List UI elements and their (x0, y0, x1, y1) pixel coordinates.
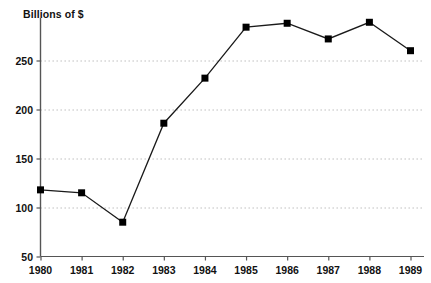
data-point-marker (160, 120, 167, 127)
data-point-marker (37, 186, 44, 193)
data-point-marker (284, 20, 291, 27)
gridlines-group (41, 61, 425, 208)
line-chart: Billions of $ 25020015010050 19801981198… (0, 0, 431, 283)
data-point-marker (201, 75, 208, 82)
data-line (41, 22, 411, 222)
y-tick-label: 200 (3, 104, 33, 116)
data-point-marker (119, 219, 126, 226)
y-tick-label: 150 (3, 153, 33, 165)
data-point-marker (325, 35, 332, 42)
x-tick-label: 1987 (307, 264, 349, 276)
x-tick-label: 1989 (390, 264, 431, 276)
x-tick-label: 1981 (61, 264, 103, 276)
x-tick-label: 1980 (20, 264, 62, 276)
data-point-marker (78, 189, 85, 196)
x-tick-label: 1985 (225, 264, 267, 276)
x-tick-label: 1984 (184, 264, 226, 276)
data-markers-group (37, 19, 414, 226)
axis-lines-group (41, 18, 425, 257)
y-tick-label: 100 (3, 202, 33, 214)
x-tick-label: 1982 (102, 264, 144, 276)
y-tick-label: 250 (3, 55, 33, 67)
plot-area (0, 0, 431, 283)
x-tick-label: 1986 (266, 264, 308, 276)
data-point-marker (407, 47, 414, 54)
x-tick-label: 1983 (143, 264, 185, 276)
data-point-marker (243, 24, 250, 31)
y-tick-label: 50 (3, 251, 33, 263)
data-point-marker (366, 19, 373, 26)
x-tick-label: 1988 (348, 264, 390, 276)
